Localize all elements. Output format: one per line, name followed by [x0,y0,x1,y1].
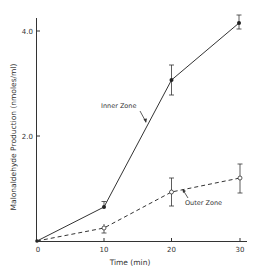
series-inner-zone [35,15,241,243]
x-tick-label-20: 20 [167,246,176,254]
inner-zone-line [37,23,239,241]
y-axis-label: Malonaldehyde Production (nmoles/ml) [9,64,18,211]
axes [37,18,248,242]
outer-zone-line [37,178,240,241]
chart: 4.0 2.0 0 10 20 30 Time (min) Malonaldeh… [0,0,261,273]
y-tick-label-4: 4.0 [22,28,33,36]
inner-zone-label: Inner Zone [101,102,136,110]
outer-zone-label: Outer Zone [185,199,222,207]
x-tick-label-30: 30 [236,246,245,254]
x-axis-label: Time (min) [109,258,151,267]
x-tick-label-10: 10 [100,246,109,254]
inner-zone-arrowhead [144,119,148,124]
y-tick-label-2: 2.0 [22,133,33,141]
x-tick-label-0: 0 [36,246,40,254]
